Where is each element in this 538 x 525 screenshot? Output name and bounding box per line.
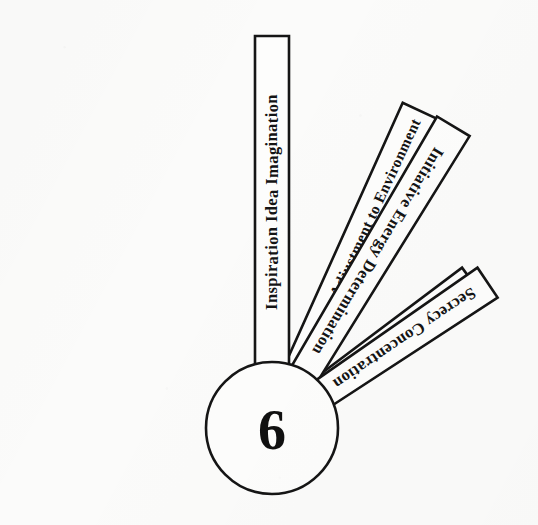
blades-layer: Judgement Tact ArtWholeness Adjustment t…: [255, 36, 498, 406]
figure-root: Judgement Tact ArtWholeness Adjustment t…: [0, 0, 538, 525]
blade-label-inspiration-idea-imagination: Inspiration Idea Imagination: [263, 94, 282, 310]
center-number: 6: [258, 399, 286, 461]
hub-layer: 6: [206, 362, 338, 494]
radiating-attributes-diagram: Judgement Tact ArtWholeness Adjustment t…: [0, 0, 538, 525]
